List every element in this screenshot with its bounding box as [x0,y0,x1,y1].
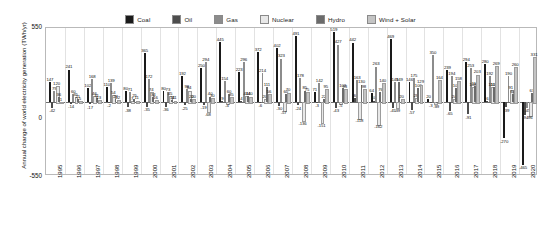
legend-label: Coal [137,16,150,23]
bar-value-label: 129 [414,79,428,84]
x-axis-tick-label: 2015 [436,165,442,178]
bar-value-label: 214 [256,68,270,73]
bar [377,102,381,126]
gridline [462,28,463,174]
bar [268,94,272,104]
bar-value-label: -36 [159,107,173,112]
bar-value-label: 175 [407,73,421,78]
gridline [122,28,123,174]
bar-value-label: 402 [270,43,284,48]
bar-value-label: 253 [464,63,478,68]
bar-value-label: 95 [319,84,333,89]
bar-value-label: 13 [92,95,106,100]
bar-value-label: 56 [262,89,276,94]
gridline [197,28,198,174]
bar-value-label: 445 [213,37,227,42]
legend-swatch-icon [172,15,181,24]
x-axis-tick-label: 2004 [227,165,233,178]
legend-item-wind-solar: Wind + Solar [367,15,416,24]
y-tick-max: 550 [16,23,42,30]
bar-value-label: 120 [50,81,64,86]
bar [382,83,386,104]
bar-value-label: 365 [138,48,152,53]
bar [287,93,291,104]
x-axis-tick-label: 2000 [152,165,158,178]
bar-value-label: -465 [516,165,530,170]
bar-value-label: 350 [426,50,440,55]
bar-value-label: -57 [277,110,291,115]
x-axis-tick-label: 2016 [454,165,460,178]
bar-value-label: -270 [497,139,511,144]
x-axis-tick-label: 2020 [530,165,536,178]
bar-value-label: 519 [327,27,341,32]
x-axis-tick-label: 2012 [379,165,385,178]
legend-label: Oil [184,16,192,23]
bar [200,68,202,102]
bar-value-label: -25 [178,106,192,111]
bar [165,102,167,107]
x-axis-tick-label: 2002 [190,165,196,178]
x-axis-tick-label: 2008 [303,165,309,178]
gridline [273,28,274,174]
x-axis-tick-label: 2014 [417,165,423,178]
bar [127,102,129,107]
bar-value-label: 1 [54,97,68,102]
bar-value-label: 469 [384,34,398,39]
x-axis-tick-label: 1999 [133,165,139,178]
bar-value-label: -96 [523,115,537,120]
x-axis-tick-label: 2018 [492,165,498,178]
bar-value-label: 70 [281,87,295,92]
bar-value-label: 16 [149,95,163,100]
x-axis-tick-label: 2010 [341,165,347,178]
legend-label: Gas [226,16,238,23]
bar [390,39,392,102]
bar-value-label: -57 [405,110,419,115]
x-axis-tick-label: 2003 [208,165,214,178]
bar-value-label: 323 [274,53,288,58]
bar-value-label: 139 [104,78,118,83]
bar-value-label: -162 [371,124,385,129]
x-axis-tick-label: 1996 [76,165,82,178]
bar-value-label: -17 [83,105,97,110]
bar-value-label: -39 [390,108,404,113]
x-axis-tick-label: 1997 [95,165,101,178]
bar-value-label: 20 [395,94,409,99]
legend-item-gas: Gas [214,15,238,24]
bar-value-label: -35 [140,107,154,112]
bar-value-label: 71 [123,87,137,92]
bar-value-label: -38 [121,108,135,113]
bar [495,66,499,104]
legend-label: Hydro [328,16,345,23]
bar-value-label: 294 [199,57,213,62]
bar [302,102,306,122]
bar [514,67,518,104]
bar-value-label: -136 [296,121,310,126]
legend-swatch-icon [367,15,376,24]
gridline [311,28,312,174]
legend-label: Nuclear [272,16,294,23]
x-axis-tick-label: 2005 [246,165,252,178]
bar [219,42,221,102]
bar [449,102,451,111]
gridline [349,28,350,174]
bar-value-label: 142 [312,78,326,83]
bar [146,102,148,107]
bar-value-label: 5 [73,96,87,101]
bar-value-label: 192 [175,71,189,76]
bar [401,99,405,104]
bar [117,100,121,104]
bar-value-label: 269 [489,61,503,66]
legend-item-coal: Coal [125,15,150,24]
x-axis-tick-label: 2006 [265,165,271,178]
gridline [178,28,179,174]
bar [505,102,507,107]
gridline [103,28,104,174]
bar-value-label: 260 [508,62,522,67]
bar-value-label: 331 [527,52,541,57]
bar-value-label: 442 [346,37,360,42]
bar-value-label: -9 [430,104,444,109]
x-axis-labels: 1995199619971998199920002001200220032004… [45,176,537,210]
bar [51,102,53,108]
bar-value-label: -151 [314,123,328,128]
bar-value-label: 20 [186,94,200,99]
